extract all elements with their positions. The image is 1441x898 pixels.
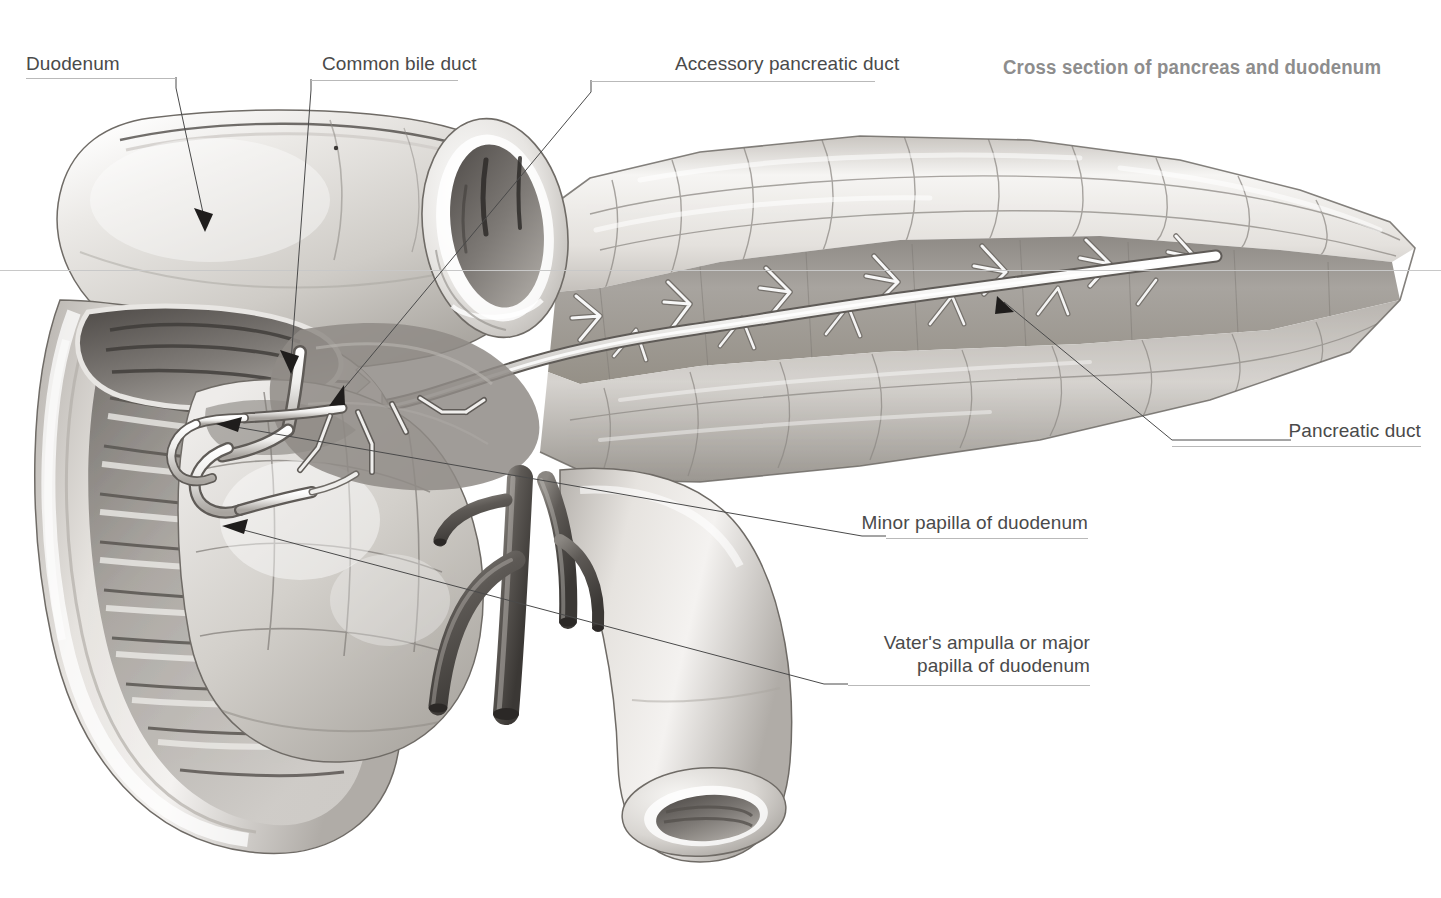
rule-duodenum xyxy=(26,78,176,79)
label-pancreatic-duct: Pancreatic duct xyxy=(1135,419,1421,442)
anatomy-illustration xyxy=(0,0,1441,898)
rule-pancreatic-duct xyxy=(1172,446,1421,447)
rule-minor-papilla xyxy=(886,538,1088,539)
figure-canvas: Duodenum Common bile duct Accessory panc… xyxy=(0,0,1441,898)
rule-common-bile-duct xyxy=(311,80,458,81)
duodenum-horizontal-loop xyxy=(560,468,792,862)
label-accessory-pancreatic-duct: Accessory pancreatic duct xyxy=(675,52,899,75)
label-vaters-ampulla-line2: papilla of duodenum xyxy=(840,654,1090,677)
rule-accessory-pancreatic-duct xyxy=(591,81,875,82)
label-vaters-ampulla-line1: Vater's ampulla or major xyxy=(840,631,1090,654)
label-common-bile-duct: Common bile duct xyxy=(322,52,477,75)
label-minor-papilla: Minor papilla of duodenum xyxy=(800,511,1088,534)
rule-vaters-ampulla xyxy=(848,685,1090,686)
label-duodenum: Duodenum xyxy=(26,52,120,75)
figure-title: Cross section of pancreas and duodenum xyxy=(1003,56,1381,79)
